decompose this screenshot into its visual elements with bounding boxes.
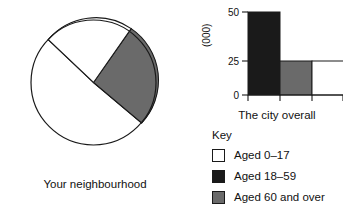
bar-chart-x-axis-label: The city overall xyxy=(211,109,343,121)
pie-slice-value-label: 900 xyxy=(60,106,79,118)
legend-label-aged-60-and-over: Aged 60 and over xyxy=(234,191,325,204)
legend-label-aged-18-59: Aged 18–59 xyxy=(234,170,296,183)
pie-chart-svg xyxy=(20,9,167,156)
bar-chart-y-axis-title: (000) xyxy=(201,24,212,47)
y-tick-label-50: 50 xyxy=(228,7,240,18)
legend-item-aged-0-17: Aged 0–17 xyxy=(212,145,343,165)
bar-aged-60-and-over xyxy=(280,61,312,95)
bar-chart-svg: 50 25 0 xyxy=(203,0,343,110)
legend-swatch-aged-0-17 xyxy=(212,149,225,162)
legend-item-aged-18-59: Aged 18–59 xyxy=(212,166,343,186)
legend-swatch-aged-18-59 xyxy=(212,170,225,183)
legend-label-aged-0-17: Aged 0–17 xyxy=(234,149,290,162)
pie-chart-figure xyxy=(20,9,167,156)
legend-title: Key xyxy=(212,129,343,142)
pie-chart-caption: Your neighbourhood xyxy=(0,178,190,190)
y-tick-label-25: 25 xyxy=(228,56,240,67)
pie-chart-panel: 900 Your neighbourhood xyxy=(0,0,195,205)
bar-aged-18-59 xyxy=(248,12,280,95)
legend-swatch-aged-60-and-over xyxy=(212,191,225,204)
bar-aged-0-17 xyxy=(312,61,343,95)
bar-chart-panel: 50 25 0 (000) The city overall xyxy=(203,0,343,125)
y-tick-label-0: 0 xyxy=(233,90,239,101)
chart-legend: Key Aged 0–17 Aged 18–59 Aged 60 and ove… xyxy=(212,129,343,208)
legend-item-aged-60-and-over: Aged 60 and over xyxy=(212,187,343,207)
